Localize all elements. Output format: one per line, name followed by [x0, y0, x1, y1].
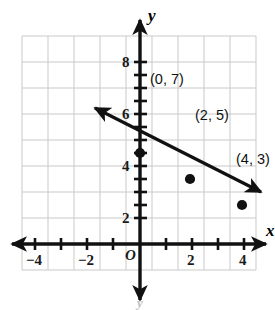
- x-tick-label-neg2: −2: [78, 253, 94, 268]
- x-axis-label: x: [266, 222, 275, 239]
- data-point-0-7: [135, 148, 145, 158]
- x-tick-label-pos4: 4: [239, 253, 247, 268]
- point-label-4-3: (4, 3): [236, 152, 270, 167]
- x-tick-label-neg4: −4: [26, 253, 42, 268]
- y-tick-label-4: 4: [122, 159, 130, 174]
- x-tick-label-pos2: 2: [187, 253, 195, 268]
- data-point-2-5: [185, 174, 195, 184]
- stray-cropped-glyph: y: [137, 296, 143, 309]
- point-label-2-5: (2, 5): [195, 108, 229, 123]
- y-tick-label-6: 6: [122, 107, 130, 122]
- origin-label: O: [125, 248, 136, 263]
- point-label-0-7: (0, 7): [150, 72, 184, 87]
- y-tick-label-8: 8: [122, 55, 130, 70]
- y-axis-label: y: [148, 7, 156, 24]
- y-tick-label-2: 2: [122, 211, 130, 226]
- data-point-4-3: [237, 200, 247, 210]
